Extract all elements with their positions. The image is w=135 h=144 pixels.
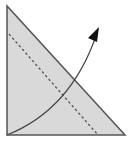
origami-diagram bbox=[0, 0, 135, 144]
arrow-head-icon bbox=[88, 27, 99, 42]
paper-triangle bbox=[7, 6, 125, 135]
